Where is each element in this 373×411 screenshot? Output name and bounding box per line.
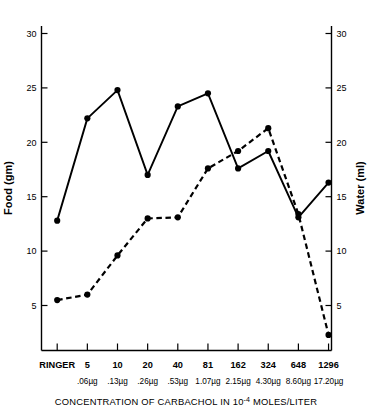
data-point-water — [145, 215, 151, 221]
data-point-water — [265, 125, 271, 131]
series-markers-water — [54, 125, 332, 338]
x-axis-dose-labels: .06µg.13µg.26µg.53µg1.07µg2.15µg4.30µg8.… — [77, 377, 344, 386]
series-markers-food — [54, 87, 332, 224]
x-category-label: RINGER — [39, 360, 75, 370]
right-tick-label: 25 — [337, 83, 347, 93]
x-category-label: 81 — [203, 360, 213, 370]
data-point-water — [175, 214, 181, 220]
chart-plot-area: 30252015105 30252015105 RINGER5102040811… — [0, 0, 373, 411]
x-dose-label: 4.30µg — [256, 377, 282, 386]
x-dose-label: .26µg — [137, 377, 158, 386]
x-axis-title: CONCENTRATION OF CARBACHOL IN 10-4 MOLES… — [55, 396, 317, 407]
left-axis-ticks: 30252015105 — [26, 29, 47, 311]
x-category-label: 324 — [261, 360, 277, 370]
series-line-water — [57, 128, 328, 335]
data-point-water — [235, 148, 241, 154]
data-point-food — [54, 218, 60, 224]
x-axis-ticks — [57, 344, 328, 351]
right-axis-title: Water (ml) — [354, 161, 366, 215]
data-point-water — [295, 211, 301, 217]
left-axis-title: Food (gm) — [2, 161, 14, 215]
data-point-water — [325, 332, 331, 338]
x-axis-category-labels: RINGER5102040811623246481296 — [39, 360, 338, 370]
x-axis-title-part2: MOLES/LITER — [250, 396, 317, 407]
x-dose-label: .13µg — [107, 377, 128, 386]
left-tick-label: 15 — [26, 192, 36, 202]
data-point-food — [235, 165, 241, 171]
x-category-label: 40 — [173, 360, 183, 370]
data-point-food — [84, 115, 90, 121]
right-tick-label: 5 — [337, 301, 342, 311]
data-point-water — [84, 292, 90, 298]
data-point-water — [54, 297, 60, 303]
data-point-food — [205, 90, 211, 96]
left-tick-label: 25 — [26, 83, 36, 93]
chart-figure: 30252015105 30252015105 RINGER5102040811… — [0, 0, 373, 411]
series-line-food — [57, 90, 328, 221]
x-dose-label: .06µg — [77, 377, 98, 386]
data-point-food — [145, 172, 151, 178]
x-category-label: 162 — [230, 360, 245, 370]
x-category-label: 5 — [85, 360, 90, 370]
x-axis-title-exponent: -4 — [244, 396, 251, 403]
x-axis-title-part1: CONCENTRATION OF CARBACHOL IN 10 — [55, 396, 244, 407]
right-tick-label: 20 — [337, 138, 347, 148]
data-point-water — [205, 165, 211, 171]
left-tick-label: 10 — [26, 246, 36, 256]
x-category-label: 20 — [143, 360, 153, 370]
data-point-food — [325, 179, 331, 185]
x-dose-label: 8.60µg — [286, 377, 312, 386]
x-dose-label: 2.15µg — [225, 377, 251, 386]
x-dose-label: .53µg — [167, 377, 188, 386]
right-tick-label: 15 — [337, 192, 347, 202]
left-tick-label: 30 — [26, 29, 36, 39]
right-tick-label: 30 — [337, 29, 347, 39]
x-category-label: 648 — [291, 360, 306, 370]
x-dose-label: 17.20µg — [314, 377, 344, 386]
right-axis-ticks: 30252015105 — [326, 29, 347, 311]
x-category-label: 10 — [112, 360, 122, 370]
x-dose-label: 1.07µg — [195, 377, 221, 386]
data-point-food — [175, 103, 181, 109]
left-tick-label: 20 — [26, 138, 36, 148]
data-point-water — [114, 252, 120, 258]
x-category-label: 1296 — [318, 360, 338, 370]
right-tick-label: 10 — [337, 246, 347, 256]
data-point-food — [114, 87, 120, 93]
left-tick-label: 5 — [31, 301, 36, 311]
data-point-food — [265, 148, 271, 154]
